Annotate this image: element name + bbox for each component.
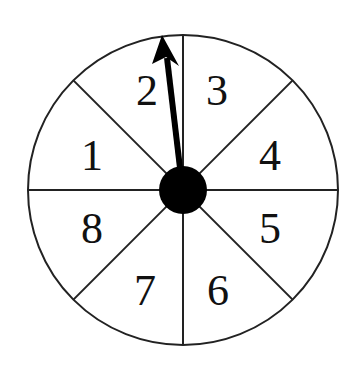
spinner-diagram: 1 2 3 4 5 6 7 8 <box>0 0 353 369</box>
section-label-4: 4 <box>259 131 281 180</box>
section-label-2: 2 <box>136 66 158 115</box>
section-label-1: 1 <box>81 131 103 180</box>
section-label-8: 8 <box>81 204 103 253</box>
section-label-5: 5 <box>259 204 281 253</box>
section-label-7: 7 <box>134 266 156 315</box>
section-label-3: 3 <box>206 66 228 115</box>
spinner-hub <box>159 166 207 214</box>
section-label-6: 6 <box>207 266 229 315</box>
